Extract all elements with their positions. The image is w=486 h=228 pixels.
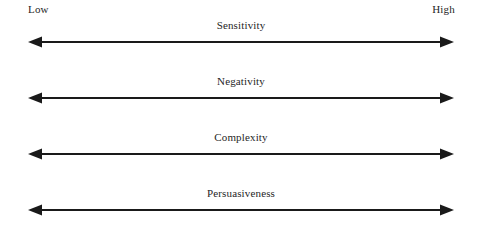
double-headed-arrow-icon — [26, 147, 456, 161]
double-headed-arrow-icon — [26, 203, 456, 217]
scale-label: Complexity — [28, 130, 454, 144]
scale-label: Persuasiveness — [28, 186, 454, 200]
scale-row: Complexity — [0, 130, 486, 162]
scale-row: Sensitivity — [0, 18, 486, 50]
scale-row: Negativity — [0, 74, 486, 106]
scale-label: Negativity — [28, 74, 454, 88]
scale-label: Sensitivity — [28, 18, 454, 32]
scale-row: Persuasiveness — [0, 186, 486, 218]
double-headed-arrow-icon — [26, 35, 456, 49]
anchor-label-high: High — [0, 3, 455, 16]
double-headed-arrow-icon — [26, 91, 456, 105]
continuum-scales-diagram: Low High Sensitivity Negativity Complexi… — [0, 0, 486, 228]
